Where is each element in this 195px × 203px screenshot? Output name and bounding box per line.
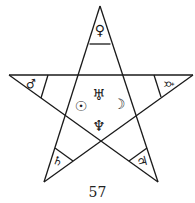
moon-icon: ☽ (113, 96, 126, 112)
pentagram-diagram: ♀ ♂ ☿ ♄ ♃ ♅ ☉ ☽ ♆ (0, 0, 195, 203)
star-line-top-to-bottom-right (100, 6, 158, 182)
separator-left (41, 75, 48, 98)
star-line-left-to-bottom-right (9, 75, 158, 182)
separator-right (154, 75, 161, 97)
mercury-icon: ☿ (162, 80, 176, 87)
star-line-right-to-bottom-left (44, 75, 193, 182)
page-number: 57 (0, 183, 195, 201)
uranus-icon: ♅ (92, 86, 105, 104)
venus-icon: ♀ (95, 22, 105, 38)
neptune-icon: ♆ (92, 117, 105, 135)
sun-icon: ☉ (75, 98, 88, 114)
mars-icon: ♂ (24, 76, 37, 92)
jupiter-icon: ♃ (135, 153, 150, 171)
